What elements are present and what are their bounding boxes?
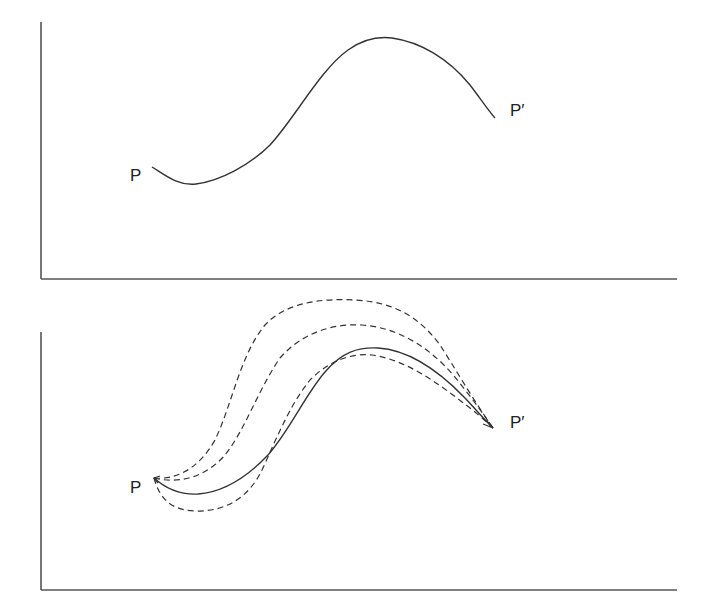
top-panel: P P′ (41, 22, 677, 279)
top-label-start: P (130, 166, 141, 185)
bottom-panel: P P′ (41, 300, 677, 590)
bottom-varied-path-upper-outer (154, 300, 493, 479)
diagram-canvas: P P′ P P′ (0, 0, 709, 611)
bottom-label-start: P (130, 478, 141, 497)
bottom-varied-path-lower (154, 355, 493, 511)
top-actual-path (152, 38, 495, 185)
top-label-end: P′ (510, 101, 525, 120)
bottom-label-end: P′ (510, 413, 525, 432)
arrowhead-icon (483, 420, 493, 428)
